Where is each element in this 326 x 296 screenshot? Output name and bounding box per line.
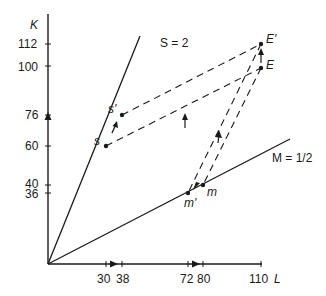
y-axis-label: K [30, 18, 39, 32]
point-e-prime [259, 42, 263, 46]
m-ray [48, 139, 290, 264]
shift-arrows [112, 48, 264, 190]
s-ray-label: S = 2 [160, 36, 189, 50]
m-ray-label: M = 1/2 [272, 151, 313, 165]
axes [45, 14, 263, 268]
arrow-up-icon-middle [182, 113, 188, 120]
x-axis-label: L [274, 272, 281, 286]
x-axis-arrow-icon-2 [192, 261, 200, 268]
s-ray [48, 36, 140, 264]
point-s-prime [120, 113, 124, 117]
label-s: s [94, 134, 100, 148]
label-m: m [207, 185, 217, 199]
arrow-s-to-s-prime-icon [113, 121, 119, 128]
label-e: E [266, 58, 275, 72]
x-tick-80: 80 [197, 272, 211, 286]
x-tick-30: 30 [97, 272, 111, 286]
y-tick-100: 100 [18, 60, 38, 74]
y-axis-arrow-icon [45, 112, 52, 120]
x-tick-38: 38 [116, 272, 130, 286]
point-s [104, 144, 108, 148]
x-tick-110: 110 [249, 272, 268, 286]
y-tick-76: 76 [25, 108, 39, 122]
y-tick-112: 112 [18, 37, 37, 51]
y-tick-36: 36 [25, 187, 39, 201]
x-axis-arrow-icon-1 [110, 261, 118, 268]
label-s-prime: s' [108, 102, 117, 116]
point-m [201, 183, 205, 187]
edgeworth-box-diagram: K L 112 100 76 60 40 36 30 38 72 80 110 … [0, 0, 326, 296]
point-m-prime [186, 191, 190, 195]
label-m-prime: m' [184, 196, 197, 210]
arrow-up-icon-lower [215, 130, 222, 138]
x-tick-72: 72 [180, 272, 194, 286]
point-e [259, 66, 263, 70]
y-tick-60: 60 [25, 139, 39, 153]
label-e-prime: E' [266, 32, 277, 46]
